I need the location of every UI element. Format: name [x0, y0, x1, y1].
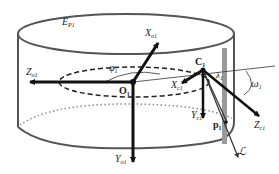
x-o-label: Xo1 [145, 28, 157, 39]
c1-point [201, 68, 206, 73]
o1-point [130, 79, 136, 85]
o1-label: O1 [119, 86, 130, 97]
y-c-label-sub: c1 [197, 115, 203, 121]
ellipsoid-label-sub: P1 [68, 22, 75, 28]
lambda-label-sub: 1 [220, 75, 223, 81]
cylinder-top-ellipse [18, 14, 234, 54]
x-c-label-sub: c1 [177, 85, 183, 91]
y-c-label: Yc1 [191, 110, 202, 121]
z-c-label-sub: c1 [260, 125, 266, 131]
x-c-label: Xc1 [171, 80, 183, 91]
phi-label-sub: 1 [115, 68, 118, 74]
omega-label-sub: 1 [259, 84, 262, 90]
c1-label: C1 [195, 57, 205, 68]
cylinder-bottom-front [18, 122, 234, 148]
phi-label: φ1 [109, 63, 118, 74]
z-o-label: Zo1 [26, 67, 38, 78]
x-o-axis [133, 43, 158, 82]
lambda-label: λ1 [216, 71, 223, 81]
y-o-label: Yo1 [115, 154, 127, 165]
c1-label-sub: 1 [202, 62, 205, 68]
o1-label-main: O [119, 85, 127, 96]
p1-label-sub: 1 [219, 125, 222, 131]
x-o-label-sub: o1 [151, 33, 157, 39]
y-o-label-sub: o1 [121, 159, 127, 165]
o1-label-sub: 1 [127, 91, 130, 97]
gray-band [222, 48, 227, 144]
ellipsoid-label: EP1 [62, 17, 75, 28]
z-c-label: Zc1 [254, 120, 265, 131]
z-o-label-sub: o1 [32, 72, 38, 78]
p1-label: p1 [213, 120, 222, 131]
l-label: ℒ [238, 146, 246, 157]
p1-point [224, 120, 228, 124]
omega-label: ω1 [251, 78, 262, 90]
omega-label-main: ω [251, 77, 259, 89]
